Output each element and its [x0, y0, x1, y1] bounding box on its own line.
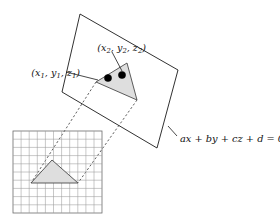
vertex-dot-1 — [104, 74, 111, 81]
vertex1-close: ) — [75, 67, 80, 78]
plane-equation-label: ax + by + cz + d = 0 — [180, 133, 280, 144]
projection-line-left — [31, 82, 96, 183]
diagram-canvas: (x1, y1, z1) (x2, y2, z2) ax + by + cz +… — [0, 0, 280, 222]
leader-equation — [168, 126, 177, 136]
vertex-dot-2 — [118, 71, 125, 78]
vertex2-close: ) — [141, 42, 146, 53]
figure-root: (x1, y1, z1) (x2, y2, z2) ax + by + cz +… — [0, 0, 280, 222]
